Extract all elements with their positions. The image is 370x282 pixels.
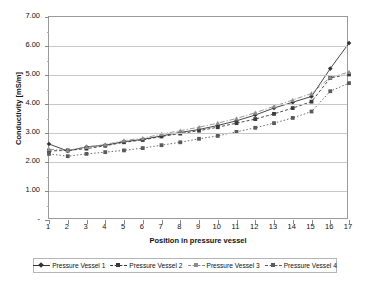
legend-marker-icon (188, 262, 205, 270)
data-point-marker (47, 152, 51, 156)
x-tick-label: 2 (65, 222, 69, 231)
y-tick-label: 4.00 (25, 99, 40, 107)
legend-item-3[interactable]: Pressure Vessel 3 (188, 262, 260, 270)
x-tick-label: 17 (344, 222, 352, 231)
y-tick-minor (47, 177, 49, 178)
data-point-marker (347, 81, 351, 85)
y-tick-minor (47, 119, 49, 120)
data-point-marker (197, 137, 201, 141)
x-tick-label: 9 (196, 222, 200, 231)
y-gridline (49, 46, 347, 47)
data-point-marker (216, 134, 220, 138)
y-tick-minor (47, 148, 49, 149)
data-point-marker (47, 142, 52, 147)
y-gridline (49, 75, 347, 76)
x-tick-label: 7 (158, 222, 162, 231)
data-point-marker (310, 100, 314, 104)
legend-item-1[interactable]: Pressure Vessel 1 (33, 262, 105, 270)
legend-label: Pressure Vessel 1 (52, 262, 105, 269)
y-tick-minor (47, 61, 49, 62)
data-point-marker (197, 129, 201, 133)
data-point-marker (272, 112, 276, 116)
data-point-marker (178, 140, 182, 144)
y-tick (45, 133, 49, 134)
legend-label: Pressure Vessel 4 (284, 262, 337, 269)
data-point-marker (253, 117, 257, 121)
x-tick-label: 11 (232, 222, 240, 231)
conductivity-line-chart: -1.002.003.004.005.006.007.00 Conductivi… (0, 0, 370, 282)
legend-marker-icon (265, 262, 282, 270)
y-tick-label: - (38, 215, 41, 223)
y-tick-label: 1.00 (25, 186, 40, 194)
data-point-marker (272, 121, 276, 125)
series-line (49, 43, 349, 151)
y-tick-minor (47, 32, 49, 33)
plot-area (48, 16, 348, 219)
data-point-marker (234, 116, 239, 120)
data-point-marker (141, 146, 145, 150)
legend-label: Pressure Vessel 2 (129, 262, 182, 269)
series-layer (49, 17, 349, 220)
y-gridline (49, 104, 347, 105)
data-point-marker (291, 106, 295, 110)
y-tick-minor (47, 206, 49, 207)
y-tick (45, 104, 49, 105)
x-tick-label: 16 (325, 222, 333, 231)
x-axis-title: Position in pressure vessel (48, 236, 348, 245)
data-point-marker (328, 89, 332, 93)
legend-marker-icon (110, 262, 127, 270)
series-2 (47, 73, 351, 153)
x-tick-label: 12 (250, 222, 258, 231)
x-tick-label: 10 (213, 222, 221, 231)
y-tick (45, 17, 49, 18)
y-gridline (49, 133, 347, 134)
x-tick-label: 14 (288, 222, 296, 231)
series-line (49, 83, 349, 156)
y-tick-label: 7.00 (25, 12, 40, 20)
x-tick-label: 3 (83, 222, 87, 231)
y-tick-minor (47, 90, 49, 91)
data-point-marker (103, 150, 107, 154)
data-point-marker (160, 143, 164, 147)
data-point-marker (122, 149, 126, 153)
series-1 (47, 41, 352, 153)
y-tick (45, 162, 49, 163)
y-axis-tick-labels: -1.002.003.004.005.006.007.00 (0, 0, 46, 282)
x-tick-label: 1 (46, 222, 50, 231)
data-point-marker (66, 154, 70, 158)
chart-legend: Pressure Vessel 1Pressure Vessel 2Pressu… (33, 258, 337, 273)
data-point-marker (253, 126, 257, 130)
x-tick-label: 15 (306, 222, 314, 231)
data-point-marker (310, 110, 314, 114)
y-gridline (49, 162, 347, 163)
data-point-marker (347, 70, 352, 74)
data-point-marker (215, 121, 220, 125)
y-tick-label: 6.00 (25, 41, 40, 49)
data-point-marker (290, 98, 295, 102)
y-axis-title: Conductivity [mS/m] (14, 39, 23, 179)
data-point-marker (235, 121, 239, 125)
y-gridline (49, 191, 347, 192)
y-tick-label: 3.00 (25, 128, 40, 136)
data-point-marker (85, 152, 89, 156)
y-tick (45, 75, 49, 76)
y-tick (45, 46, 49, 47)
y-tick (45, 191, 49, 192)
legend-item-4[interactable]: Pressure Vessel 4 (265, 262, 337, 270)
x-tick-label: 8 (177, 222, 181, 231)
x-tick-label: 6 (140, 222, 144, 231)
data-point-marker (291, 116, 295, 120)
legend-label: Pressure Vessel 3 (207, 262, 260, 269)
data-point-marker (216, 125, 220, 129)
x-tick-label: 5 (121, 222, 125, 231)
x-tick-label: 13 (269, 222, 277, 231)
legend-item-2[interactable]: Pressure Vessel 2 (110, 262, 182, 270)
y-tick-label: 2.00 (25, 157, 40, 165)
y-tick-label: 5.00 (25, 70, 40, 78)
x-axis-tick-labels: 1234567891011121314151617 (48, 222, 348, 236)
legend-marker-icon (33, 262, 50, 270)
x-tick-label: 4 (102, 222, 106, 231)
data-point-marker (122, 138, 127, 142)
